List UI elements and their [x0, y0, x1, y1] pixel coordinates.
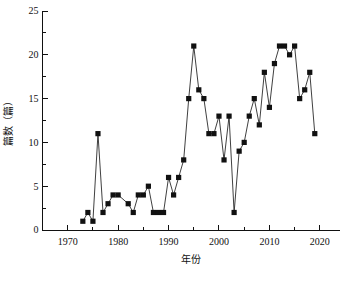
- data-point-marker: [100, 210, 105, 215]
- x-tick-label: 1970: [58, 236, 78, 247]
- data-point-marker: [216, 114, 221, 119]
- x-axis-title: 年份: [181, 253, 201, 265]
- data-point-marker: [171, 192, 176, 197]
- data-point-marker: [221, 157, 226, 162]
- data-point-marker: [151, 210, 156, 215]
- data-point-marker: [262, 70, 267, 75]
- data-point-marker: [287, 52, 292, 57]
- data-point-marker: [237, 149, 242, 154]
- data-point-marker: [302, 87, 307, 92]
- data-point-marker: [257, 122, 262, 127]
- data-point-marker: [110, 192, 115, 197]
- data-point-marker: [272, 61, 277, 66]
- data-point-marker: [232, 210, 237, 215]
- data-point-marker: [292, 43, 297, 48]
- data-point-marker: [95, 131, 100, 136]
- data-point-marker: [252, 96, 257, 101]
- data-point-marker: [166, 175, 171, 180]
- x-tick-label: 2020: [310, 236, 330, 247]
- data-point-marker: [282, 43, 287, 48]
- data-point-marker: [146, 184, 151, 189]
- data-point-marker: [176, 175, 181, 180]
- y-tick-label: 10: [29, 137, 39, 148]
- data-point-marker: [247, 114, 252, 119]
- data-point-marker: [267, 105, 272, 110]
- x-tick-label: 2000: [209, 236, 229, 247]
- data-point-marker: [116, 192, 121, 197]
- x-tick-label: 1990: [159, 236, 179, 247]
- line-chart-plot: 197019801990200020102020 0510152025 年份篇数…: [0, 0, 351, 282]
- data-point-marker: [277, 43, 282, 48]
- chart-figure: 197019801990200020102020 0510152025 年份篇数…: [0, 0, 351, 282]
- y-tick-label: 0: [34, 224, 39, 235]
- data-point-marker: [307, 70, 312, 75]
- data-point-marker: [136, 192, 141, 197]
- data-point-marker: [297, 96, 302, 101]
- y-tick-label: 20: [29, 49, 39, 60]
- x-axis-tick-labels: 197019801990200020102020: [58, 236, 330, 247]
- data-point-marker: [156, 210, 161, 215]
- data-point-marker: [312, 131, 317, 136]
- data-point-marker: [126, 201, 131, 206]
- data-point-marker: [201, 96, 206, 101]
- y-tick-label: 5: [34, 181, 39, 192]
- y-tick-label: 15: [29, 93, 39, 104]
- data-point-markers: [80, 43, 317, 223]
- data-point-marker: [206, 131, 211, 136]
- data-point-marker: [141, 192, 146, 197]
- data-point-marker: [161, 210, 166, 215]
- data-point-marker: [181, 157, 186, 162]
- data-point-marker: [196, 87, 201, 92]
- data-point-marker: [85, 210, 90, 215]
- data-point-marker: [226, 114, 231, 119]
- data-point-marker: [186, 96, 191, 101]
- data-point-marker: [105, 201, 110, 206]
- x-tick-label: 1980: [108, 236, 128, 247]
- data-point-marker: [191, 43, 196, 48]
- data-point-marker: [90, 219, 95, 224]
- y-tick-label: 25: [29, 5, 39, 16]
- x-tick-label: 2010: [259, 236, 279, 247]
- data-point-marker: [242, 140, 247, 145]
- y-axis-tick-labels: 0510152025: [29, 5, 39, 235]
- data-point-marker: [80, 219, 85, 224]
- data-point-marker: [211, 131, 216, 136]
- data-point-marker: [131, 210, 136, 215]
- y-axis-title: 篇数（篇）: [2, 96, 14, 146]
